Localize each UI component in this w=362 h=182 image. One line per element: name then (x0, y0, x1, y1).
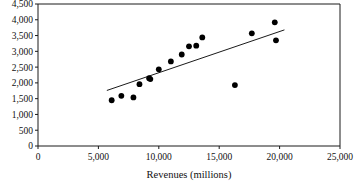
y-tick-label: 500 (19, 126, 34, 136)
x-tick-label: 5,000 (88, 152, 110, 162)
data-point (186, 43, 192, 49)
data-point (232, 82, 238, 88)
x-axis-title: Revenues (millions) (147, 169, 232, 181)
data-point (193, 43, 199, 49)
y-tick-label: 1,000 (12, 110, 34, 120)
y-tick-label: 2,000 (12, 78, 34, 88)
data-point (168, 59, 174, 65)
y-tick-label: 0 (28, 141, 33, 151)
data-point (137, 81, 143, 87)
x-tick-label: 20,000 (267, 152, 293, 162)
x-tick-label: 25,000 (327, 152, 353, 162)
data-point (249, 30, 255, 36)
data-point (272, 19, 278, 25)
data-points-group (109, 19, 279, 103)
data-point (131, 95, 137, 101)
trend-line (107, 30, 285, 91)
x-axis-ticks: 05,00010,00015,00020,00025,000 (36, 146, 354, 162)
data-point (199, 35, 205, 41)
data-point (273, 37, 279, 43)
data-point (109, 97, 115, 103)
y-tick-label: 4,500 (12, 0, 34, 9)
data-point (179, 52, 185, 58)
y-tick-label: 2,500 (12, 63, 34, 73)
y-tick-label: 3,000 (12, 47, 34, 57)
data-point (156, 66, 162, 72)
scatter-plot-canvas: 05001,0001,5002,0002,5003,0003,5004,0004… (0, 0, 362, 182)
y-tick-label: 1,500 (12, 94, 34, 104)
y-axis-ticks: 05001,0001,5002,0002,5003,0003,5004,0004… (12, 0, 38, 151)
axes-group (38, 4, 340, 146)
scatter-chart-figure: 05001,0001,5002,0002,5003,0003,5004,0004… (0, 0, 362, 182)
x-tick-label: 0 (36, 152, 41, 162)
x-tick-label: 15,000 (206, 152, 232, 162)
data-point (147, 76, 153, 82)
y-tick-label: 4,000 (12, 15, 34, 25)
data-point (118, 93, 124, 99)
x-tick-label: 10,000 (146, 152, 172, 162)
y-tick-label: 3,500 (12, 31, 34, 41)
